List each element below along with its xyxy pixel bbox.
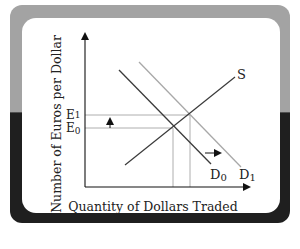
- exchange-rate-diagram: S D0 D1 E1 E0 Quantity of Dollars Traded…: [0, 0, 300, 249]
- d0-label: D0: [210, 167, 227, 183]
- supply-label: S: [237, 67, 246, 82]
- d0-label-main: D: [210, 167, 220, 182]
- e0-label-main: E: [66, 121, 75, 135]
- d1-label: D1: [239, 167, 256, 183]
- e0-label: E0: [66, 121, 81, 136]
- e1-label: E1: [66, 108, 81, 122]
- supply-curve-s: [125, 77, 235, 165]
- y-axis-label: Number of Euros per Dollar: [49, 35, 64, 213]
- x-axis-label: Quantity of Dollars Traded: [68, 199, 238, 214]
- d1-label-sub: 1: [249, 172, 255, 183]
- d1-label-main: D: [239, 167, 249, 182]
- e0-label-sub: 0: [75, 126, 81, 136]
- demand-curve-d0: [119, 70, 211, 164]
- d0-label-sub: 0: [220, 172, 226, 183]
- e1-label-main: E: [66, 108, 75, 122]
- e1-label-sub: 1: [75, 110, 81, 120]
